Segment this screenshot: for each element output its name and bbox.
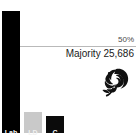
bar-label-c: C bbox=[46, 129, 64, 137]
bar-lab bbox=[2, 11, 20, 133]
labour-rose-emblem bbox=[101, 66, 131, 98]
majority-threshold-line bbox=[20, 46, 136, 47]
majority-value-label: Majority 25,686 bbox=[66, 48, 134, 60]
election-result-bar-chart: 50% Majority 25,686 Lab LD C bbox=[0, 0, 136, 139]
bar-label-lab: Lab bbox=[2, 129, 20, 137]
bar-label-ld: LD bbox=[24, 129, 42, 137]
threshold-percent-label: 50% bbox=[118, 35, 134, 45]
